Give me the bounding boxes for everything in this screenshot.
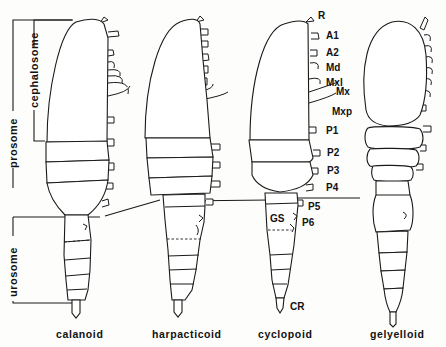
taxon-label-harpacticoid: harpacticoid	[152, 328, 222, 340]
taxon-label-gelyelloid: gelyelloid	[370, 328, 424, 340]
label-A2: A2	[326, 47, 339, 58]
label-P2: P2	[327, 147, 340, 158]
taxon-label-calanoid: calanoid	[56, 328, 103, 340]
copepod-diagram: prosome cephalosome urosome	[0, 0, 446, 347]
label-Md: Md	[326, 62, 340, 73]
label-Mxp: Mxp	[332, 106, 352, 117]
label-P1: P1	[326, 125, 339, 136]
label-P4: P4	[326, 182, 339, 193]
label-A1: A1	[326, 30, 339, 41]
label-GS: GS	[270, 213, 285, 224]
label-urosome: urosome	[7, 247, 19, 297]
label-R: R	[318, 10, 326, 21]
label-P5: P5	[308, 201, 321, 212]
cyclopoid-figure	[249, 17, 338, 313]
label-cephalosome: cephalosome	[28, 32, 40, 108]
harpacticoid-figure	[145, 16, 228, 317]
label-P6: P6	[302, 217, 315, 228]
label-P3: P3	[327, 165, 340, 176]
calanoid-figure	[46, 17, 130, 318]
label-CR: CR	[290, 301, 305, 312]
gelyelloid-figure	[364, 17, 433, 327]
label-Mx: Mx	[336, 86, 350, 97]
taxon-label-cyclopoid: cyclopoid	[258, 328, 312, 340]
label-prosome: prosome	[7, 118, 19, 168]
